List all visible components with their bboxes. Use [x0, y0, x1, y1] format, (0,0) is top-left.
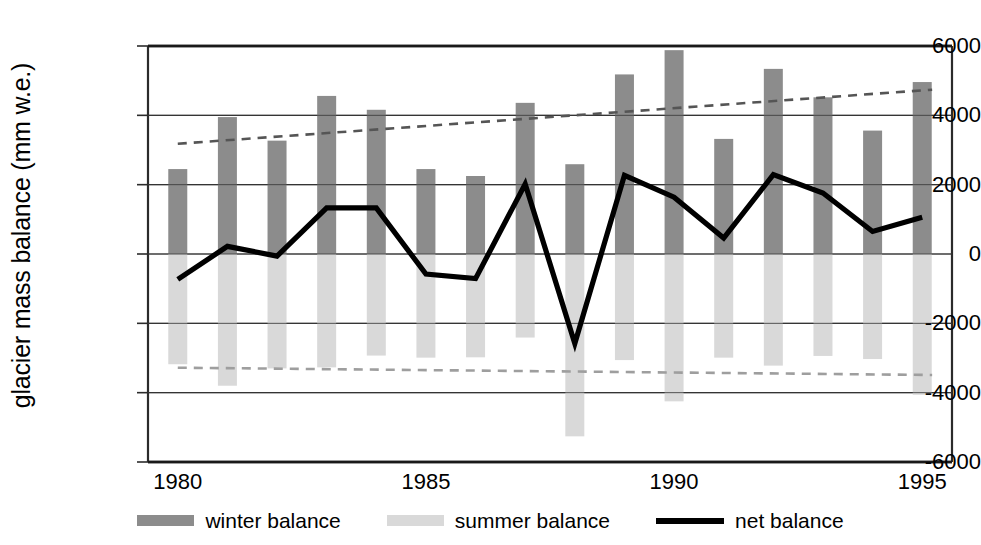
trendline-summer-balance-trend [178, 368, 932, 375]
winter-bar [813, 97, 832, 254]
legend-entry: winter balance [137, 509, 340, 533]
glacier-mass-balance-chart: glacier mass balance (mm w.e.) 600040002… [0, 0, 981, 545]
summer-bars-group [168, 254, 931, 436]
y-tick-label: 2000 [849, 172, 981, 198]
legend-bar-swatch [137, 515, 194, 526]
y-tick-label: -2000 [849, 310, 981, 336]
legend-entry: net balance [656, 509, 844, 533]
summer-bar [714, 254, 733, 358]
y-tick-label: -4000 [849, 380, 981, 406]
winter-bar [168, 169, 187, 254]
winter-bar [218, 117, 237, 254]
summer-bar [516, 254, 535, 338]
summer-bar [615, 254, 634, 360]
summer-bar [367, 254, 386, 356]
x-tick-label: 1980 [153, 469, 202, 495]
summer-bar [168, 254, 187, 364]
y-tick-label: 6000 [849, 33, 981, 59]
chart-legend: winter balancesummer balancenet balance [0, 496, 981, 545]
summer-bar [863, 254, 882, 359]
y-tick-label: 4000 [849, 102, 981, 128]
summer-bar [218, 254, 237, 386]
legend-label: summer balance [455, 509, 610, 533]
legend-line-swatch [656, 518, 724, 524]
plot-area: 6000400020000-2000-4000-6000198019851990… [0, 0, 981, 500]
winter-bar [268, 141, 287, 254]
winter-bar [367, 110, 386, 254]
winter-bar [665, 50, 684, 254]
legend-label: winter balance [205, 509, 340, 533]
summer-bar [813, 254, 832, 356]
winter-bar [615, 74, 634, 254]
summer-bar [665, 254, 684, 401]
y-tick-label: 0 [849, 241, 981, 267]
summer-bar [268, 254, 287, 368]
winter-bar [764, 69, 783, 254]
winter-bar [416, 169, 435, 254]
chart-svg [0, 0, 981, 500]
winter-bar [565, 164, 584, 254]
winter-bar [317, 96, 336, 254]
legend-entry: summer balance [387, 509, 610, 533]
winter-bars-group [168, 50, 931, 254]
x-tick-label: 1990 [650, 469, 699, 495]
legend-label: net balance [735, 509, 844, 533]
net-balance-line [178, 175, 922, 344]
legend-bar-swatch [387, 515, 444, 526]
summer-bar [317, 254, 336, 367]
x-tick-label: 1985 [401, 469, 450, 495]
x-tick-label: 1995 [898, 469, 947, 495]
winter-bar [466, 176, 485, 254]
summer-bar [764, 254, 783, 366]
